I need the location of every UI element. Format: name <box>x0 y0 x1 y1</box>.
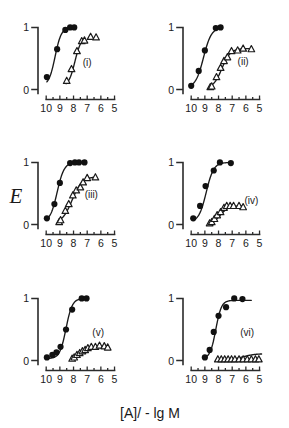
data-point-open-triangle <box>84 174 91 180</box>
data-point-filled-circle <box>231 295 237 301</box>
data-point-filled-circle <box>202 47 208 53</box>
x-tick-label: 6 <box>98 373 104 385</box>
x-tick-label: 7 <box>229 373 235 385</box>
x-tick-label: 7 <box>84 102 90 114</box>
data-point-filled-circle <box>211 329 217 335</box>
x-tick-label: 5 <box>112 102 118 114</box>
y-tick-label: 1 <box>168 292 174 304</box>
panel-i: 011098765(i) <box>23 21 117 113</box>
data-point-open-triangle <box>248 46 255 52</box>
x-tick-label: 7 <box>84 237 90 249</box>
data-point-filled-circle <box>217 24 223 30</box>
x-tick-label: 9 <box>57 237 63 249</box>
panel-label: (ii) <box>238 56 249 67</box>
x-tick-label: 9 <box>57 102 63 114</box>
data-point-filled-circle <box>202 183 208 189</box>
figure-svg: 011098765(i)011098765(ii)011098765(iii)0… <box>0 0 289 428</box>
data-point-open-triangle <box>63 77 70 83</box>
y-axis-line <box>32 162 38 228</box>
x-tick-label: 10 <box>185 102 197 114</box>
data-point-open-triangle <box>93 34 100 40</box>
data-point-filled-circle <box>239 296 245 302</box>
data-point-filled-circle <box>57 180 63 186</box>
data-point-filled-circle <box>44 74 50 80</box>
data-point-open-triangle <box>240 45 247 51</box>
data-point-filled-circle <box>211 167 217 173</box>
y-tick-label: 1 <box>23 21 29 33</box>
y-axis-line <box>32 298 38 364</box>
panel-label: (iv) <box>244 195 258 206</box>
x-tick-label: 7 <box>229 237 235 249</box>
y-tick-label: 0 <box>23 219 29 231</box>
data-point-filled-circle <box>44 215 50 221</box>
x-tick-label: 9 <box>202 237 208 249</box>
x-tick-label: 6 <box>243 237 249 249</box>
x-tick-label: 8 <box>216 373 222 385</box>
x-tick-label: 10 <box>40 237 52 249</box>
panel-iii: 011098765(iii) <box>23 156 117 248</box>
panel-vi: 011098765(vi) <box>168 292 262 384</box>
x-tick-label: 6 <box>98 102 104 114</box>
panel-label: (i) <box>83 57 92 68</box>
figure-canvas: 011098765(i)011098765(ii)011098765(iii)0… <box>0 0 289 428</box>
data-point-filled-circle <box>44 354 50 360</box>
data-point-open-triangle <box>62 207 69 213</box>
panel-iv: 011098765(iv) <box>168 156 262 248</box>
y-tick-label: 0 <box>23 355 29 367</box>
x-tick-label: 9 <box>202 373 208 385</box>
data-point-filled-circle <box>63 326 69 332</box>
x-tick-label: 6 <box>98 237 104 249</box>
data-point-open-triangle <box>92 174 99 180</box>
y-axis-line <box>32 27 38 93</box>
x-axis-caption: [A]/ - lg M <box>120 405 180 421</box>
x-tick-label: 10 <box>40 102 52 114</box>
y-axis-caption: E <box>9 184 23 208</box>
x-tick-label: 5 <box>257 373 263 385</box>
panel-label: (iii) <box>85 189 98 200</box>
data-point-filled-circle <box>223 304 229 310</box>
panel-v: 011098765(v) <box>23 292 117 384</box>
data-point-filled-circle <box>76 159 82 165</box>
x-tick-label: 8 <box>71 102 77 114</box>
x-tick-label: 7 <box>84 373 90 385</box>
y-tick-label: 1 <box>23 292 29 304</box>
x-tick-label: 8 <box>71 237 77 249</box>
data-point-filled-circle <box>215 313 221 319</box>
x-tick-label: 10 <box>185 373 197 385</box>
x-tick-label: 10 <box>40 373 52 385</box>
x-tick-label: 7 <box>229 102 235 114</box>
fit-curve-open-triangles <box>66 39 84 83</box>
x-tick-label: 8 <box>71 373 77 385</box>
x-tick-label: 6 <box>243 373 249 385</box>
data-point-filled-circle <box>228 160 234 166</box>
y-tick-label: 0 <box>168 355 174 367</box>
x-tick-label: 8 <box>216 237 222 249</box>
data-point-filled-circle <box>202 354 208 360</box>
y-tick-label: 0 <box>168 84 174 96</box>
panel-label: (v) <box>92 327 104 338</box>
data-point-filled-circle <box>188 83 194 89</box>
x-tick-label: 5 <box>257 237 263 249</box>
y-axis-line <box>177 27 183 93</box>
data-point-filled-circle <box>57 344 63 350</box>
y-axis-line <box>177 298 183 364</box>
data-point-filled-circle <box>54 46 60 52</box>
x-tick-label: 10 <box>185 237 197 249</box>
fit-curve-filled-circles <box>47 28 74 82</box>
y-tick-label: 1 <box>168 156 174 168</box>
x-tick-label: 8 <box>216 102 222 114</box>
x-tick-label: 5 <box>112 237 118 249</box>
data-point-filled-circle <box>51 201 57 207</box>
y-tick-label: 1 <box>168 21 174 33</box>
x-tick-label: 9 <box>202 102 208 114</box>
data-point-filled-circle <box>69 307 75 313</box>
x-tick-label: 5 <box>257 102 263 114</box>
data-point-filled-circle <box>207 347 213 353</box>
data-point-filled-circle <box>81 159 87 165</box>
data-point-filled-circle <box>83 295 89 301</box>
data-point-filled-circle <box>197 203 203 209</box>
y-axis-line <box>177 162 183 228</box>
panel-label: (vi) <box>240 327 254 338</box>
data-point-open-triangle <box>228 47 235 53</box>
data-point-filled-circle <box>196 68 202 74</box>
